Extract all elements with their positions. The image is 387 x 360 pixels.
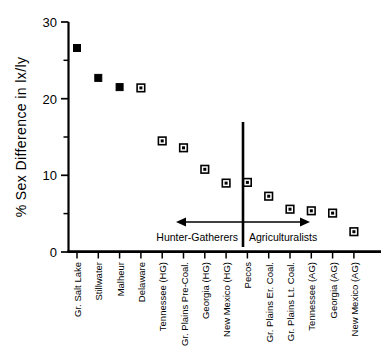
x-category-label-9: Gr. Plains Er. Coal. [264,262,275,342]
data-point-2 [116,84,123,91]
data-point-6 [201,166,209,174]
x-axis-category-labels: Gr. Salt Lake Stillwater Malheur Delawar… [72,262,360,346]
x-category-label-12: Georgia (AG) [328,262,339,319]
agriculturalists-label: Agriculturalists [249,231,317,243]
x-category-label-4: Tennessee (HG) [157,262,168,331]
x-category-label-6: Georgia (HG) [200,262,211,319]
x-category-label-11: Tennessee (AG) [306,262,317,331]
x-category-label-0: Gr. Salt Lake [72,262,83,317]
x-category-label-8: Pecos [242,262,253,289]
x-category-label-7: New Mexico (HG) [221,262,232,337]
y-axis-title: % Sex Difference in lx/ly [13,57,29,218]
x-category-label-10: Gr. Plains Lt. Coal. [285,262,296,341]
axes [67,22,381,253]
y-tick-label-10: 10 [43,168,57,183]
data-point-3 [137,84,145,92]
data-point-1 [95,74,102,81]
y-tick-label-0: 0 [50,245,57,260]
data-point-13 [350,228,358,236]
y-tick-label-20: 20 [43,92,57,107]
data-point-11 [308,207,316,215]
data-point-7 [222,179,230,187]
scatter-plot-svg: 30 20 10 0 % Sex Difference in lx/ly [0,0,387,360]
x-category-label-3: Delaware [136,262,147,302]
data-point-4 [158,137,166,145]
x-category-label-2: Malheur [115,262,126,296]
y-axis-tick-labels: 30 20 10 0 [43,15,57,260]
data-point-10 [286,205,294,213]
right-arrow-head-icon [300,218,310,227]
y-tick-label-30: 30 [43,15,57,30]
x-category-label-1: Stillwater [93,262,104,301]
data-point-12 [329,209,337,217]
x-category-label-5: Gr. Plains Pre-Coal. [179,262,190,346]
left-arrow-head-icon [176,218,186,227]
chart-figure: 30 20 10 0 % Sex Difference in lx/ly [0,0,387,360]
x-category-label-13: New Mexico (AG) [349,262,360,336]
data-point-5 [180,144,188,152]
data-point-0 [74,45,81,52]
data-point-8 [244,179,252,187]
data-point-9 [265,192,273,200]
hunter-gatherers-label: Hunter-Gatherers [156,231,238,243]
data-points [74,45,358,236]
